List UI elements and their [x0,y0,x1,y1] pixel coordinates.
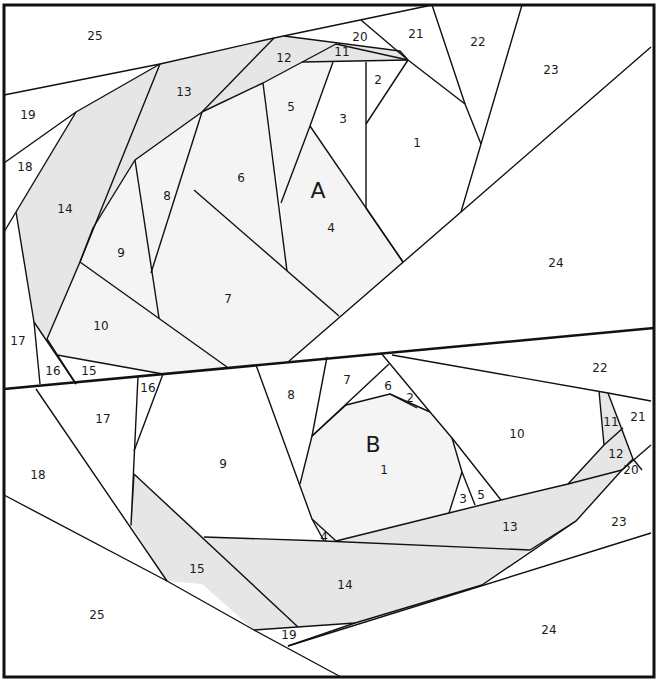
block-a-piece-number: 2 [374,73,382,87]
block-b-fills [131,391,633,630]
block-b-piece-number: 15 [189,562,204,576]
block-b-piece-number: 10 [509,427,524,441]
block-a-piece-number: 18 [17,160,32,174]
block-b-piece-number: 7 [343,373,351,387]
block-a-piece-number: 20 [352,30,367,44]
block-a-piece-number: 21 [408,27,423,41]
block-b-piece-number: 13 [502,520,517,534]
block-a-piece-number: 17 [10,334,25,348]
block-a-piece-number: 22 [470,35,485,49]
seam [392,355,651,401]
pattern-diagram: 1234567891011121314151617181920212223242… [0,0,658,681]
block-b-piece-number: 16 [140,381,155,395]
block-b-piece-number: 12 [608,447,623,461]
seam [432,5,465,104]
block-b-piece-number: 22 [592,361,607,375]
block-b-piece-number: 6 [384,379,392,393]
block-b-piece-number: 4 [320,530,328,544]
block-a-piece-number: 24 [548,256,563,270]
block-a-piece-number: 1 [413,136,421,150]
block-a-piece-number: 8 [163,189,171,203]
block-b-piece-number: 5 [477,488,485,502]
block-b-piece-number: 2 [406,391,414,405]
block-b-piece-number: 8 [287,388,295,402]
block-a-piece-number: 15 [81,364,96,378]
block-a-piece-number: 9 [117,246,125,260]
block-a-piece-number: 23 [543,63,558,77]
block-b-piece-number: 21 [630,410,645,424]
block-b-piece-number: 20 [623,463,638,477]
block-b-piece-number: 1 [380,463,388,477]
block-a-piece-number: 16 [45,364,60,378]
block-a-piece-number: 6 [237,171,245,185]
block-a-piece-number: 3 [339,112,347,126]
block-b-piece-number: 25 [89,608,104,622]
block-b-piece-number: 9 [219,457,227,471]
block-b-piece-number: 23 [611,515,626,529]
block-a-label: A [310,178,325,203]
block-b-piece-number: 11 [603,415,618,429]
block-b-piece-number: 24 [541,623,556,637]
block-b-piece-number: 17 [95,412,110,426]
block-b-piece-number: 19 [281,628,296,642]
seam [366,60,408,124]
block-a-piece-number: 14 [57,202,72,216]
block-a-piece-number: 10 [93,319,108,333]
block-a-piece-number: 13 [176,85,191,99]
block-a-piece-number: 25 [87,29,102,43]
block-a-piece-number: 12 [276,51,291,65]
block-b-piece-number: 14 [337,578,352,592]
block-a-piece-number: 19 [20,108,35,122]
block-a-piece-number: 11 [334,45,349,59]
block-a-piece-number: 4 [327,221,335,235]
block-b-piece-number: 18 [30,468,45,482]
block-b-piece-number: 3 [459,492,467,506]
pattern-svg: 1234567891011121314151617181920212223242… [0,0,658,681]
block-a-piece-number: 5 [287,100,295,114]
block-b-label: B [365,432,380,457]
block-a-piece-number: 7 [224,292,232,306]
